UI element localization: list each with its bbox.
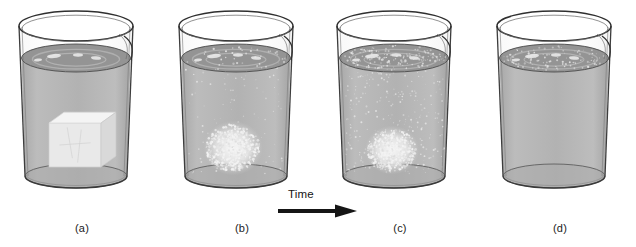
beaker-d [490, 0, 622, 196]
beaker-a [12, 0, 144, 196]
dissolution-figure: Time (a)(b)(c)(d) [0, 0, 636, 247]
panel-label-d: (d) [530, 222, 590, 234]
panel-label-b: (b) [212, 222, 272, 234]
beaker-c [330, 0, 462, 196]
panel-label-a: (a) [52, 222, 112, 234]
solid-crystal-group [203, 121, 263, 176]
time-axis-label: Time [288, 188, 314, 200]
panel-label-c: (c) [370, 222, 430, 234]
time-arrow-icon [277, 203, 359, 219]
beaker-b [172, 0, 304, 196]
solid-crystal-group [365, 126, 420, 175]
solid-crystal-group [49, 112, 116, 167]
